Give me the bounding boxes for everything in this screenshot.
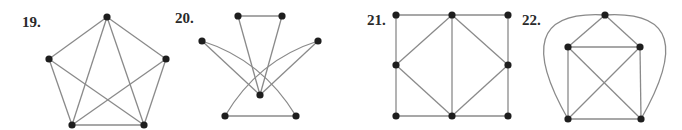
vertex xyxy=(140,121,147,128)
vertex xyxy=(448,112,455,119)
edge xyxy=(396,65,452,116)
edge xyxy=(452,65,508,116)
curved-edge xyxy=(544,15,605,119)
edge xyxy=(49,59,72,125)
edge xyxy=(72,59,166,125)
graph-21 xyxy=(392,11,511,119)
vertex xyxy=(162,55,169,62)
vertex xyxy=(392,11,399,18)
edge xyxy=(107,17,166,59)
vertex xyxy=(504,61,511,68)
graph-19 xyxy=(45,13,169,128)
edge xyxy=(49,17,107,59)
graph-diagrams xyxy=(0,0,682,130)
edge xyxy=(144,59,166,125)
vertex xyxy=(292,112,299,119)
vertex xyxy=(278,12,285,19)
graph-20 xyxy=(198,12,321,119)
vertex xyxy=(448,11,455,18)
curved-edge xyxy=(605,15,666,119)
vertex xyxy=(234,12,241,19)
vertex xyxy=(45,55,52,62)
vertex xyxy=(198,37,205,44)
vertex xyxy=(392,61,399,68)
edge xyxy=(640,47,641,119)
edge xyxy=(568,15,605,47)
vertex xyxy=(564,115,571,122)
vertex xyxy=(221,112,228,119)
edge xyxy=(202,41,260,95)
edge xyxy=(396,15,452,65)
edge xyxy=(260,41,318,95)
vertex xyxy=(636,43,643,50)
graph-22 xyxy=(544,11,666,122)
edge xyxy=(605,15,640,47)
vertex xyxy=(504,11,511,18)
curved-edge xyxy=(202,41,296,116)
vertex xyxy=(601,11,608,18)
vertex xyxy=(637,115,644,122)
edge xyxy=(49,59,144,125)
edge xyxy=(72,17,107,125)
vertex xyxy=(256,91,263,98)
vertex xyxy=(504,112,511,119)
vertex xyxy=(103,13,110,20)
vertex xyxy=(564,43,571,50)
vertex xyxy=(68,121,75,128)
edge xyxy=(452,15,508,65)
vertex xyxy=(314,37,321,44)
edge xyxy=(107,17,144,125)
vertex xyxy=(392,112,399,119)
